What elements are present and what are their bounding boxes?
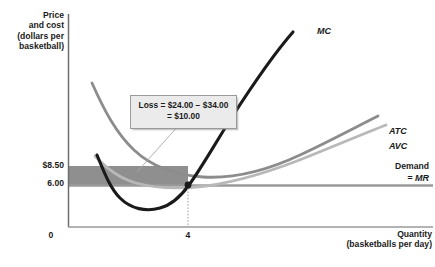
origin-label: 0 <box>44 230 58 240</box>
y-tick-label-600: 6.00 <box>12 178 64 188</box>
loss-rectangle <box>68 166 188 185</box>
loss-callout-line-2: = $10.00 <box>167 111 200 121</box>
x-axis-title-main: Quantity <box>397 229 432 239</box>
loss-callout-line-1: Loss = $24.00 − $34.00 <box>139 100 229 110</box>
equilibrium-point <box>185 182 192 189</box>
economics-cost-curve-figure: Priceand cost(dollars perbasketball) $8.… <box>0 0 435 267</box>
loss-callout-box: Loss = $24.00 − $34.00= $10.00 <box>130 95 237 129</box>
demand-curve-label: Demand <box>363 161 429 171</box>
callout-leader-line <box>137 124 180 172</box>
y-tick-label-850: $8.50 <box>12 160 64 170</box>
chart-plot-area <box>0 0 435 267</box>
x-tick-label-4: 4 <box>181 230 195 240</box>
avc-curve-label: AVC <box>389 141 407 152</box>
marginal-revenue-label: = MR <box>363 173 429 184</box>
atc-curve-label: ATC <box>389 126 407 137</box>
y-axis-title-line-4: basketball) <box>19 41 64 51</box>
y-axis-title-line-2: and cost <box>29 20 64 30</box>
x-axis-title-units: (basketballs per day) <box>347 239 433 249</box>
y-axis-title-line-1: Price <box>43 10 64 20</box>
x-axis-title: Quantity(basketballs per day) <box>268 229 432 250</box>
y-axis-title: Priceand cost(dollars perbasketball) <box>0 10 64 52</box>
y-axis-title-line-3: (dollars per <box>17 31 64 41</box>
mc-curve-label: MC <box>317 26 331 37</box>
